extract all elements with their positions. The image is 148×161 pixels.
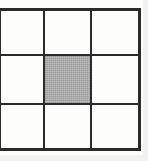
grid-line-vertical-inner-left bbox=[43, 8, 45, 151]
grid-cell-r0c1[interactable]: r0c1 bbox=[44, 8, 90, 54]
bottom-margin bbox=[0, 155, 148, 161]
grid-cell-r2c2[interactable]: r2c2 bbox=[92, 106, 140, 150]
grid-cell-r2c0[interactable]: r2c0 bbox=[0, 106, 43, 150]
grid-cell-r0c2[interactable]: r0c2 bbox=[92, 8, 140, 54]
right-margin bbox=[143, 0, 148, 161]
grid-cell-r0c0[interactable]: r0c0 bbox=[0, 8, 43, 54]
grid-container: r0c0 r0c1 r0c2 r1c0 r1c1 r1c2 r2c0 r2c1 … bbox=[0, 8, 141, 151]
grid-line-vertical-right bbox=[138, 8, 141, 151]
grid-line-horizontal-inner-lower bbox=[0, 103, 141, 105]
grid-cell-r1c2[interactable]: r1c2 bbox=[92, 56, 140, 104]
grid-cell-r1c0[interactable]: r1c0 bbox=[0, 56, 43, 104]
grid-line-horizontal-top bbox=[0, 8, 141, 11]
grid-line-vertical-left-cropped bbox=[0, 8, 1, 151]
grid-line-horizontal-inner-upper bbox=[0, 54, 141, 56]
grid-line-horizontal-bottom bbox=[0, 148, 141, 151]
grid-diagram-figure: r0c0 r0c1 r0c2 r1c0 r1c1 r1c2 r2c0 r2c1 … bbox=[0, 0, 148, 161]
grid-cell-r2c1[interactable]: r2c1 bbox=[44, 106, 90, 150]
grid-line-vertical-inner-right bbox=[90, 8, 92, 151]
grid-cell-r1c1-shaded[interactable]: r1c1 bbox=[44, 56, 90, 104]
